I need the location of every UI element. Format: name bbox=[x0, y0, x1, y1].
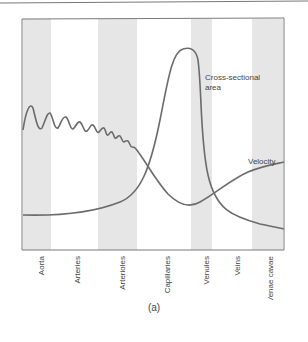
plot-frame bbox=[22, 18, 284, 250]
band-venules bbox=[191, 19, 212, 250]
band-venae-cavae bbox=[252, 19, 283, 250]
label-cross-sectional-area-1: Cross-sectional bbox=[205, 73, 260, 82]
x-axis-labels: Aorta Arteries Arterioles Capillaries Ve… bbox=[37, 255, 275, 300]
chart: Cross-sectional area Velocity Aorta Arte… bbox=[0, 0, 308, 300]
series-velocity bbox=[23, 106, 284, 205]
band-arterioles bbox=[98, 19, 137, 250]
x-label-venules: Venules bbox=[202, 256, 211, 284]
category-bands bbox=[23, 19, 283, 250]
x-label-veins: Veins bbox=[233, 256, 242, 276]
x-label-arterioles: Arterioles bbox=[118, 256, 127, 290]
label-velocity: Velocity bbox=[248, 157, 276, 166]
x-label-arteries: Arteries bbox=[73, 256, 82, 284]
x-label-venae-cavae: Venae cavae bbox=[266, 255, 275, 300]
label-cross-sectional-area-2: area bbox=[205, 83, 222, 92]
x-label-aorta: Aorta bbox=[37, 255, 46, 275]
x-label-capillaries: Capillaries bbox=[163, 256, 172, 293]
figure-caption: (a) bbox=[0, 302, 308, 313]
